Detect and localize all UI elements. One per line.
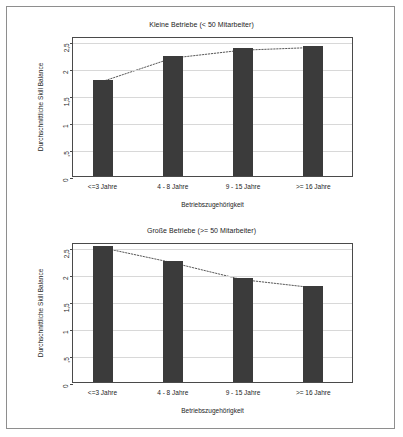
bar — [233, 278, 253, 382]
gridline — [73, 43, 352, 44]
x-axis-title: Betriebszugehörigkeit — [72, 407, 353, 414]
gridline — [73, 249, 352, 250]
y-axis-tick — [70, 249, 73, 250]
y-axis-title: Durchschnittliche Skill Balance — [35, 243, 45, 383]
gridline — [73, 276, 352, 277]
y-axis-tick-label-text: ,5 — [64, 151, 71, 156]
document-page-frame: Kleine Betriebe (< 50 Mitarbeiter) Durch… — [6, 6, 395, 429]
chart-title: Kleine Betriebe (< 50 Mitarbeiter) — [7, 21, 396, 28]
bar — [93, 246, 113, 382]
y-axis-tick — [70, 43, 73, 44]
trend-polyline — [102, 48, 311, 82]
chart-panel-grosse-betriebe: Große Betriebe (>= 50 Mitarbeiter) Durch… — [7, 219, 396, 424]
x-axis-tick-label: 9 - 15 Jahre — [226, 389, 261, 396]
y-axis-tick-label-text: 2 — [64, 277, 71, 281]
plot-area: 0,511,522,5<=3 Jahre4 - 8 Jahre9 - 15 Ja… — [72, 243, 353, 383]
x-axis-tick-label: 9 - 15 Jahre — [226, 183, 261, 190]
y-axis-tick-label-text: 2 — [64, 71, 71, 75]
plot-area: 0,511,522,5<=3 Jahre4 - 8 Jahre9 - 15 Ja… — [72, 37, 353, 177]
y-axis-tick — [70, 97, 73, 98]
y-axis-tick — [70, 70, 73, 71]
y-axis-tick-label-text: 2,5 — [64, 44, 71, 53]
trend-polyline — [102, 248, 311, 288]
bar — [233, 48, 253, 176]
y-axis-tick-label-text: 0 — [64, 384, 71, 388]
chart-title: Große Betriebe (>= 50 Mitarbeiter) — [7, 227, 396, 234]
y-axis-tick-label-text: 0 — [64, 178, 71, 182]
x-axis-tick-label: <=3 Jahre — [88, 389, 117, 396]
x-axis-title: Betriebszugehörigkeit — [72, 201, 353, 208]
y-axis-title: Durchschnittliche Skill Balance — [35, 37, 45, 177]
y-axis-tick-label-text: 1,5 — [64, 303, 71, 312]
y-axis-title-text: Durchschnittliche Skill Balance — [37, 63, 44, 152]
y-axis-tick-label-text: 2,5 — [64, 250, 71, 259]
y-axis-tick-label-text: 1,5 — [64, 97, 71, 106]
x-axis-tick-label: 4 - 8 Jahre — [157, 389, 188, 396]
y-axis-tick — [70, 303, 73, 304]
y-axis-tick — [70, 124, 73, 125]
bar — [163, 261, 183, 382]
bar — [303, 46, 323, 176]
y-axis-tick-label-text: 1 — [64, 124, 71, 128]
y-axis-title-text: Durchschnittliche Skill Balance — [37, 269, 44, 358]
y-axis-tick-label-text: 1 — [64, 330, 71, 334]
y-axis-tick — [70, 178, 73, 179]
chart-panel-kleine-betriebe: Kleine Betriebe (< 50 Mitarbeiter) Durch… — [7, 13, 396, 218]
x-axis-tick-label: >= 16 Jahre — [296, 389, 331, 396]
y-axis-tick — [70, 330, 73, 331]
bar — [93, 80, 113, 176]
y-axis-tick — [70, 276, 73, 277]
bar — [303, 286, 323, 382]
x-axis-tick-label: 4 - 8 Jahre — [157, 183, 188, 190]
x-axis-tick-label: <=3 Jahre — [88, 183, 117, 190]
bar — [163, 56, 183, 176]
y-axis-tick — [70, 384, 73, 385]
x-axis-tick-label: >= 16 Jahre — [296, 183, 331, 190]
y-axis-tick-label-text: ,5 — [64, 357, 71, 362]
